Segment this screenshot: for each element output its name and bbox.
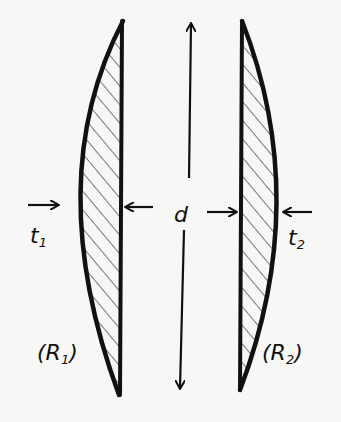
separation-label: d xyxy=(174,202,189,227)
thickness-2-label: t2 xyxy=(288,225,305,252)
lens-1 xyxy=(80,21,123,395)
thickness-1-label: t1 xyxy=(30,223,47,250)
radius-2-label: (R2) xyxy=(262,340,303,367)
lens-2 xyxy=(240,21,277,390)
two-lens-diagram: d t1 t2 (R1) (R2) xyxy=(0,0,341,422)
radius-1-label: (R1) xyxy=(37,340,78,367)
